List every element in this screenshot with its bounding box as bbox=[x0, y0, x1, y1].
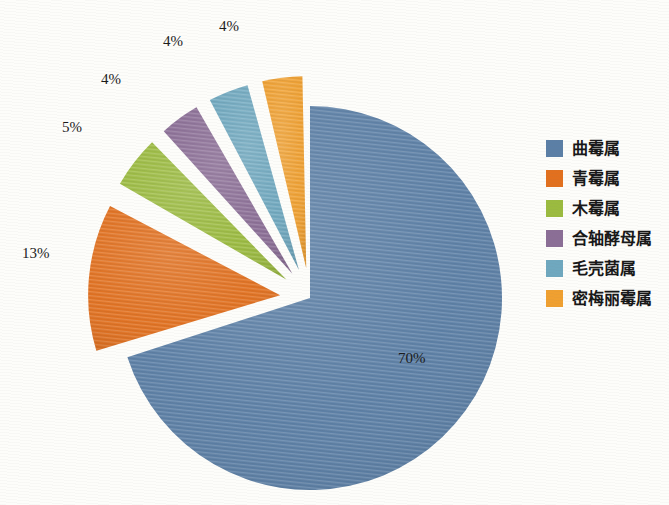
slice-label-4-teal: 4% bbox=[163, 33, 183, 50]
chart-canvas: 70% 13% 5% 4% 4% 4% 曲霉属 青霉属 木霉属 合轴酵母属 毛壳… bbox=[0, 0, 669, 505]
legend-swatch-icon bbox=[546, 140, 563, 157]
slice-label-13: 13% bbox=[22, 245, 50, 262]
legend-label: 曲霉属 bbox=[572, 140, 620, 158]
slice-label-4-purple: 4% bbox=[101, 71, 121, 88]
legend-swatch-icon bbox=[546, 260, 563, 277]
legend-item-4[interactable]: 毛壳菌属 bbox=[546, 258, 652, 279]
legend-label: 木霉属 bbox=[572, 200, 620, 218]
legend-label: 密梅丽霉属 bbox=[572, 290, 652, 308]
slice-label-5: 5% bbox=[62, 119, 82, 136]
legend-item-5[interactable]: 密梅丽霉属 bbox=[546, 288, 652, 309]
legend-label: 毛壳菌属 bbox=[572, 260, 636, 278]
slice-label-4-amber: 4% bbox=[219, 18, 239, 35]
legend-swatch-icon bbox=[546, 230, 563, 247]
legend-item-2[interactable]: 木霉属 bbox=[546, 198, 652, 219]
slice-label-70: 70% bbox=[398, 350, 426, 367]
legend-swatch-icon bbox=[546, 290, 563, 307]
legend-item-3[interactable]: 合轴酵母属 bbox=[546, 228, 652, 249]
pie-slice-texture bbox=[88, 76, 502, 490]
legend-swatch-icon bbox=[546, 200, 563, 217]
legend-label: 青霉属 bbox=[572, 170, 620, 188]
legend-label: 合轴酵母属 bbox=[572, 230, 652, 248]
chart-legend: 曲霉属 青霉属 木霉属 合轴酵母属 毛壳菌属 密梅丽霉属 bbox=[546, 138, 652, 309]
legend-item-1[interactable]: 青霉属 bbox=[546, 168, 652, 189]
legend-item-0[interactable]: 曲霉属 bbox=[546, 138, 652, 159]
legend-swatch-icon bbox=[546, 170, 563, 187]
